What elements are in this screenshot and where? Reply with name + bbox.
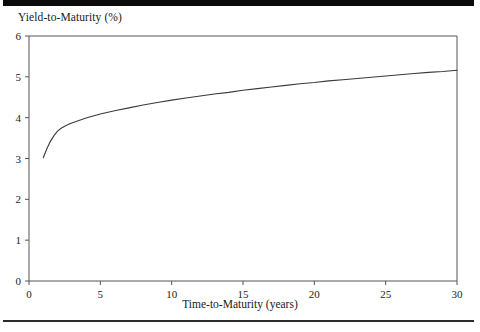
y-tick-label: 0 xyxy=(16,275,22,287)
y-tick-label: 2 xyxy=(16,193,22,205)
y-tick-label: 4 xyxy=(16,112,22,124)
y-axis-ticks: 0123456 xyxy=(16,30,30,287)
y-tick-label: 5 xyxy=(16,71,22,83)
yield-curve-chart: 0123456 051015202530 xyxy=(0,0,480,332)
x-axis-title: Time-to-Maturity (years) xyxy=(0,298,480,310)
data-series-group xyxy=(43,70,457,157)
page-bottom-rule xyxy=(3,320,474,322)
y-tick-label: 3 xyxy=(16,153,22,165)
plot-frame xyxy=(29,36,457,281)
y-tick-label: 1 xyxy=(16,234,22,246)
y-tick-label: 6 xyxy=(16,30,22,42)
yield-curve-line xyxy=(43,70,457,157)
